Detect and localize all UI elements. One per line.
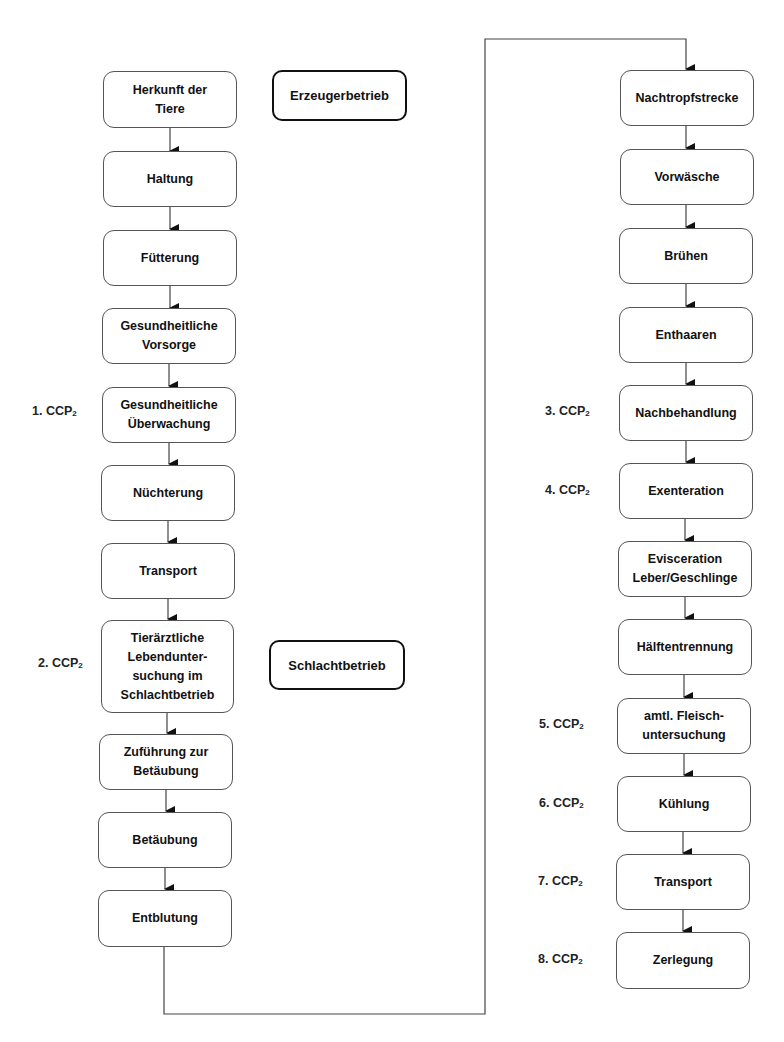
step-haelftentrennung: Hälftentrennung xyxy=(618,619,752,675)
step-kuehlung: Kühlung xyxy=(617,776,751,832)
step-vorwaesche: Vorwäsche xyxy=(620,149,754,205)
step-fuetterung: Fütterung xyxy=(103,230,237,286)
step-zufuehrung-zur-betaeubung: Zuführung zur Betäubung xyxy=(99,734,233,790)
step-transport-kuehl: Transport xyxy=(616,854,750,910)
ccp-label-1: 1. CCP2 xyxy=(32,404,77,418)
step-evisceration: Evisceration Leber/Geschlinge xyxy=(618,541,752,597)
ccp-label-6: 6. CCP2 xyxy=(539,796,584,810)
ccp-label-2: 2. CCP2 xyxy=(38,656,83,670)
step-betaeubung: Betäubung xyxy=(98,812,232,868)
ccp-label-8: 8. CCP2 xyxy=(538,952,583,966)
ccp-label-3: 3. CCP2 xyxy=(545,404,590,418)
step-entblutung: Entblutung xyxy=(98,890,232,947)
step-gesundheitliche-ueberwachung: Gesundheitliche Überwachung xyxy=(102,387,236,443)
section-erzeugerbetrieb: Erzeugerbetrieb xyxy=(272,70,407,121)
step-herkunft-der-tiere: Herkunft der Tiere xyxy=(103,71,237,128)
section-schlachtbetrieb: Schlachtbetrieb xyxy=(269,640,405,690)
step-nachbehandlung: Nachbehandlung xyxy=(619,385,753,441)
step-amtl-fleischuntersuchung: amtl. Fleisch- untersuchung xyxy=(617,698,751,754)
step-gesundheitliche-vorsorge: Gesundheitliche Vorsorge xyxy=(102,308,236,364)
step-enthaaren: Enthaaren xyxy=(619,307,753,363)
step-nachtropfstrecke: Nachtropfstrecke xyxy=(620,70,754,126)
step-nuechterung: Nüchterung xyxy=(101,465,235,521)
step-haltung: Haltung xyxy=(103,151,237,207)
step-exenteration: Exenteration xyxy=(619,463,753,519)
step-zerlegung: Zerlegung xyxy=(616,932,750,989)
ccp-label-7: 7. CCP2 xyxy=(538,874,583,888)
ccp-label-4: 4. CCP2 xyxy=(545,483,590,497)
step-transport-lebend: Transport xyxy=(101,543,235,599)
step-bruehen: Brühen xyxy=(619,228,753,284)
step-tieraerztliche-lebenduntersuchung: Tierärztliche Lebendunter- suchung im Sc… xyxy=(101,620,234,713)
ccp-label-5: 5. CCP2 xyxy=(539,717,584,731)
